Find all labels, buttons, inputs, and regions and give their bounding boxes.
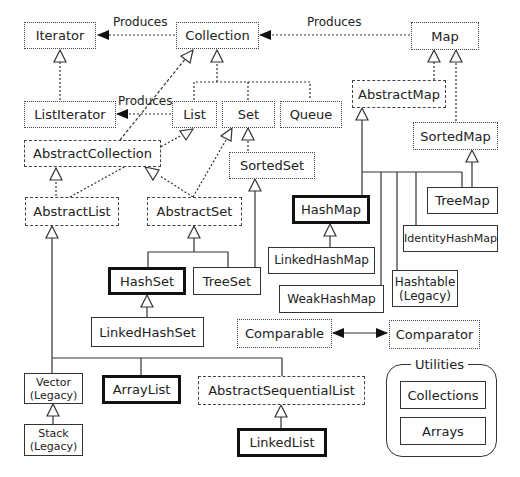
node-linked-list: LinkedList (237, 428, 327, 457)
node-label: AbstractList (33, 204, 110, 219)
node-label: TreeSet (203, 274, 251, 289)
node-vector: Vector (Legacy) (24, 373, 83, 404)
node-arrays: Arrays (400, 417, 486, 445)
node-label: HashSet (120, 274, 174, 289)
edge-label-produces-iterator: Produces (113, 15, 168, 29)
node-tree-set: TreeSet (193, 267, 261, 295)
node-label: AbstractSet (157, 204, 233, 219)
node-abstract-list: AbstractList (25, 197, 119, 226)
node-label: AbstractMap (358, 87, 440, 102)
node-label: List (183, 107, 206, 122)
node-label: LinkedHashSet (99, 325, 196, 340)
node-abstract-set: AbstractSet (147, 197, 242, 226)
node-label: Iterator (36, 28, 85, 43)
node-label: Vector (36, 376, 71, 389)
node-map: Map (411, 22, 479, 50)
node-abstract-map: AbstractMap (352, 80, 446, 108)
node-linked-hash-map: LinkedHashMap (268, 247, 375, 274)
node-list-iterator: ListIterator (24, 101, 116, 128)
node-label: Hashtable (395, 275, 456, 289)
node-hash-set: HashSet (108, 267, 186, 295)
node-set: Set (222, 101, 275, 128)
node-label: WeakHashMap (287, 292, 375, 307)
node-hashtable: Hashtable (Legacy) (392, 270, 458, 307)
node-sorted-map: SortedMap (413, 122, 498, 150)
node-comparator: Comparator (389, 320, 480, 349)
node-label: SortedMap (420, 129, 490, 144)
node-label: Stack (38, 427, 68, 440)
node-label: LinkedList (249, 435, 314, 450)
node-label: Collection (185, 28, 249, 43)
node-linked-hash-set: LinkedHashSet (91, 317, 204, 347)
node-iterator: Iterator (24, 22, 96, 49)
node-label: AbstractSequentialList (208, 383, 355, 398)
utilities-title: Utilities (411, 357, 468, 372)
edge-label-produces-list-iterator: Produces (118, 94, 173, 108)
node-sublabel: (Legacy) (30, 440, 78, 453)
node-label: ArrayList (113, 382, 171, 397)
node-label: Comparable (245, 326, 324, 341)
node-label: Collections (407, 388, 478, 403)
node-tree-map: TreeMap (427, 187, 498, 214)
node-collections: Collections (400, 381, 486, 409)
node-array-list: ArrayList (102, 375, 181, 404)
node-sublabel: (Legacy) (30, 389, 78, 402)
node-abstract-collection: AbstractCollection (24, 140, 161, 167)
node-label: Queue (290, 107, 333, 122)
node-abstract-sequential-list: AbstractSequentialList (198, 376, 365, 405)
edge-label-produces-collection: Produces (307, 15, 362, 29)
node-queue: Queue (280, 101, 342, 128)
node-label: TreeMap (435, 193, 490, 208)
node-sorted-set: SortedSet (229, 152, 315, 179)
node-label: AbstractCollection (33, 146, 152, 161)
node-label: ListIterator (34, 107, 105, 122)
node-list: List (172, 101, 217, 128)
node-sublabel: (Legacy) (399, 289, 451, 303)
node-label: Map (431, 29, 458, 44)
node-label: HashMap (301, 202, 361, 217)
node-collection: Collection (176, 22, 259, 49)
node-label: SortedSet (240, 158, 304, 173)
node-label: IdentityHashMap (404, 232, 497, 245)
node-label: LinkedHashMap (274, 253, 369, 268)
node-comparable: Comparable (237, 319, 332, 348)
node-stack: Stack (Legacy) (24, 424, 83, 456)
node-label: Arrays (422, 424, 464, 439)
node-label: Set (238, 107, 259, 122)
node-hash-map: HashMap (292, 195, 370, 224)
node-weak-hash-map: WeakHashMap (279, 285, 384, 313)
node-label: Comparator (396, 327, 474, 342)
node-identity-hash-map: IdentityHashMap (403, 225, 498, 252)
